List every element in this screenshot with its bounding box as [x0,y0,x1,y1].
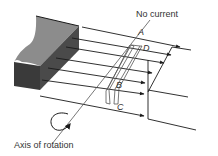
motor-coil-diagram: No current A D B C Axis of rotation [0,0,218,156]
side-b-label: B [116,80,122,90]
rotation-arrow-icon [51,113,70,130]
state-label: No current [136,9,179,19]
right-magnet-pole [148,47,196,130]
magnet-front-face [14,62,40,90]
side-c-label: C [117,102,124,112]
side-d-label: D [143,43,150,53]
coil-loop [106,45,142,104]
axis-label: Axis of rotation [14,140,74,150]
left-magnet-pole [14,16,79,90]
side-a-label: A [137,27,144,37]
